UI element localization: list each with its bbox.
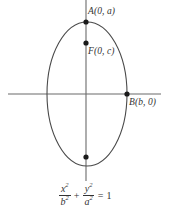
point-a-label: A(0, a)	[88, 7, 115, 17]
denominator-a-exponent: 2	[90, 194, 93, 201]
denominator-b: b2	[59, 196, 71, 208]
point-b-covertex	[124, 91, 129, 96]
numerator-y-exponent: 2	[89, 181, 92, 188]
denominator-a-base: a	[85, 196, 90, 207]
fraction-y-over-a: y2 a2	[83, 183, 95, 207]
plus-operator: +	[74, 190, 80, 201]
point-a-vertex	[83, 19, 88, 24]
fraction-x-over-b: x2 b2	[59, 183, 71, 207]
denominator-b-exponent: 2	[66, 194, 69, 201]
numerator-x-exponent: 2	[65, 181, 68, 188]
point-b-label: B(b, 0)	[129, 98, 156, 108]
equation-rhs: 1	[106, 190, 111, 201]
equals-sign: =	[98, 190, 104, 201]
denominator-b-base: b	[61, 196, 66, 207]
point-f-label: F(0, c)	[88, 47, 115, 57]
denominator-a: a2	[83, 196, 95, 208]
ellipse-equation: x2 b2 + y2 a2 = 1	[0, 183, 169, 207]
point-f-focus-upper	[83, 40, 88, 45]
point-focus-lower	[83, 154, 88, 159]
